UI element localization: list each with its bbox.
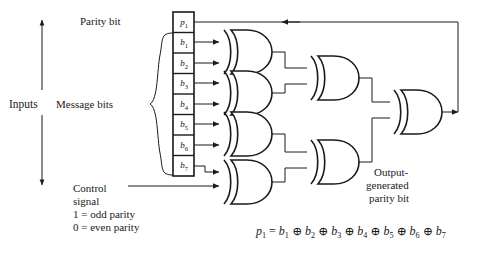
control-signal-label-line1: Control xyxy=(73,182,107,195)
xor-op-4: ⊕ xyxy=(370,224,380,238)
b7-wire xyxy=(194,166,219,172)
xor-gate-s2-2 xyxy=(311,140,359,184)
register-cell-b3: b3 xyxy=(174,78,194,90)
output-label-line2: generated xyxy=(366,179,409,192)
xor-gate-s1-1 xyxy=(224,30,272,74)
message-bits-label: Message bits xyxy=(56,98,113,111)
inputs-label: Inputs xyxy=(9,98,38,112)
xor-op-1: ⊕ xyxy=(292,224,302,238)
xor-op-3: ⊕ xyxy=(344,224,354,238)
register-cell-b6: b6 xyxy=(174,140,194,152)
circuit-svg xyxy=(0,0,480,254)
equation-equals: = xyxy=(269,224,276,238)
parity-generator-diagram: p1 b1 b2 b3 b4 b5 b6 b7 Parity bit Input… xyxy=(0,0,480,254)
register-cell-b4: b4 xyxy=(174,99,194,111)
control-signal-label-line2: signal xyxy=(73,195,99,208)
xor-gate-s1-3 xyxy=(224,112,272,156)
xor-gate-s3-output xyxy=(394,90,442,134)
register-cell-b2: b2 xyxy=(174,58,194,70)
output-label-line3: parity bit xyxy=(369,192,409,205)
output-label-line1: Output- xyxy=(374,166,408,179)
message-bits-brace xyxy=(150,33,173,175)
stage2-to-stage3-wires xyxy=(359,78,390,162)
register-cell-b7: b7 xyxy=(174,160,194,172)
parity-equation: p1 = b1 ⊕ b2 ⊕ b3 ⊕ b4 ⊕ b5 ⊕ b6 ⊕ b7 xyxy=(256,224,446,241)
xor-op-5: ⊕ xyxy=(397,224,407,238)
register-cell-b5: b5 xyxy=(174,119,194,131)
register-cell-b1: b1 xyxy=(174,37,194,49)
xor-gate-s1-4 xyxy=(224,160,272,204)
register-cell-p1: p1 xyxy=(174,17,194,29)
xor-gate-s1-2 xyxy=(224,71,272,115)
parity-bit-label: Parity bit xyxy=(80,15,121,28)
stage1-input-wires xyxy=(194,42,219,145)
xor-gate-s2-1 xyxy=(311,56,359,100)
control-even-parity-label: 0 = even parity xyxy=(73,221,139,234)
stage1-to-stage2-wires xyxy=(272,52,307,182)
xor-op-6: ⊕ xyxy=(423,224,433,238)
xor-op-2: ⊕ xyxy=(318,224,328,238)
control-odd-parity-label: 1 = odd parity xyxy=(73,208,135,221)
